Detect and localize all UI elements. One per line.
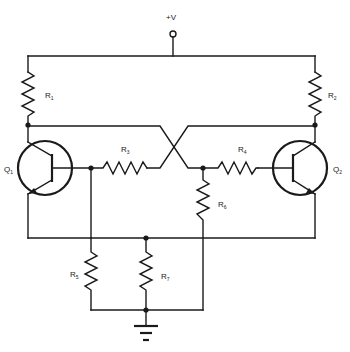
resistor-r5 [85, 238, 97, 310]
supply-terminal: +V [166, 13, 177, 56]
label-r3: R3 [121, 145, 130, 155]
resistor-r3 [91, 162, 147, 174]
resistor-r4 [203, 162, 258, 174]
label-r2: R2 [328, 91, 337, 101]
resistor-r6 [197, 168, 209, 310]
label-q1: Q1 [4, 165, 13, 175]
label-r5: R5 [70, 270, 79, 280]
label-q2: Q2 [333, 165, 342, 175]
resistor-r1 [22, 72, 34, 125]
label-r1: R1 [45, 91, 54, 101]
cross-wire-left [28, 126, 203, 168]
resistor-r7 [140, 238, 152, 310]
flip-flop-circuit-diagram: +V R1 R2 Q1 R3 Q2 [0, 0, 350, 352]
terminal-circle-icon [170, 31, 176, 37]
ground-icon [134, 310, 158, 340]
transistor-q2: Q2 [258, 125, 342, 238]
supply-label: +V [166, 13, 177, 22]
resistor-r2 [309, 72, 321, 125]
label-r4: R4 [238, 145, 247, 155]
label-r7: R7 [161, 272, 170, 282]
schematic-svg: +V R1 R2 Q1 R3 Q2 [0, 0, 350, 352]
cross-wire-right [147, 126, 315, 168]
label-r6: R6 [218, 200, 227, 210]
transistor-q1: Q1 [4, 125, 91, 238]
